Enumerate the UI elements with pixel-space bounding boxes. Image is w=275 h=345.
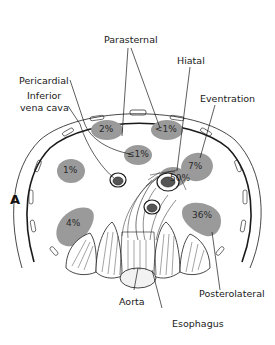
percent-pericardial: ≤1%	[127, 149, 149, 159]
label-hiatal: Hiatal	[177, 55, 205, 66]
label-parasternal: Parasternal	[104, 34, 158, 45]
percent-parasternal-right: 2%	[99, 124, 113, 134]
muscle-bundle-3	[154, 222, 180, 278]
percent-posterolateral-right: 4%	[66, 218, 80, 228]
rib-cage-ring	[14, 110, 262, 268]
muscle-bundle-2	[96, 222, 122, 278]
label-posterolateral: Posterolateral	[199, 288, 265, 299]
label-esophagus: Esophagus	[172, 318, 224, 329]
percent-eventration: 7%	[188, 161, 202, 171]
muscle-bundle-4	[180, 234, 210, 275]
hernia-regions	[56, 120, 221, 246]
label-eventration: Eventration	[200, 93, 255, 104]
panel-label: A	[10, 192, 20, 207]
percent-posterolateral-left: 36%	[192, 210, 212, 220]
label-aorta: Aorta	[119, 296, 145, 307]
percent-parasternal-left: <1%	[155, 124, 177, 134]
vertebral-body	[120, 268, 156, 288]
label-inferior-vena-cava-line2: vena cava	[20, 102, 69, 113]
label-pericardial: Pericardial	[19, 75, 69, 86]
label-inferior-vena-cava-line1: Inferior	[27, 90, 61, 101]
percent-hiatal: 50%	[170, 173, 190, 183]
percent-ivc: 1%	[63, 165, 77, 175]
